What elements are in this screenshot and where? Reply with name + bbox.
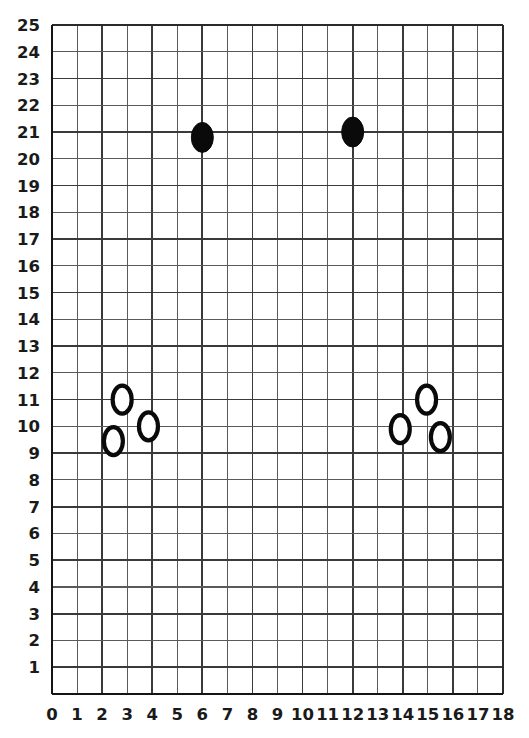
y-axis-tick-label: 10 [17, 417, 40, 436]
y-axis-tick-label: 2 [29, 631, 40, 650]
data-point-marker-filled [342, 117, 364, 147]
x-axis-tick-label: 11 [316, 705, 339, 724]
x-axis-tick-label: 18 [492, 705, 515, 724]
y-axis-tick-label: 6 [29, 524, 40, 543]
x-axis-tick-label: 14 [391, 705, 414, 724]
y-axis-tick-label: 13 [17, 337, 40, 356]
data-point-marker-hollow [113, 386, 132, 414]
x-axis-tick-label: 10 [291, 705, 314, 724]
x-axis-tick-label: 9 [272, 705, 283, 724]
x-axis-tick-label: 5 [172, 705, 183, 724]
y-axis-tick-label: 12 [17, 364, 40, 383]
y-axis-tick-label: 16 [17, 257, 40, 276]
y-axis-tick-label: 17 [17, 230, 40, 249]
data-point-marker-hollow [417, 386, 436, 414]
y-axis-tick-label: 14 [17, 310, 40, 329]
x-axis-tick-label: 12 [341, 705, 364, 724]
y-axis-tick-label: 15 [17, 284, 40, 303]
y-axis-tick-label: 18 [17, 203, 40, 222]
x-axis-tick-label: 1 [71, 705, 82, 724]
y-axis-tick-label: 20 [17, 150, 40, 169]
y-axis-tick-label: 19 [17, 177, 40, 196]
y-axis-tick-label: 25 [17, 16, 40, 35]
y-axis-tick-label: 21 [17, 123, 40, 142]
x-axis-tick-label: 8 [247, 705, 258, 724]
chart-canvas: 0123456789101112131415161718 12345678910… [0, 0, 529, 738]
x-axis-tick-label: 4 [146, 705, 157, 724]
y-axis-tick-label: 1 [29, 658, 40, 677]
x-axis-tick-label: 7 [222, 705, 233, 724]
x-axis-tick-label: 3 [121, 705, 132, 724]
chart-background [0, 0, 529, 738]
y-axis-tick-label: 5 [29, 551, 40, 570]
y-axis-tick-label: 3 [29, 605, 40, 624]
data-point-marker-hollow [139, 412, 158, 440]
y-axis-tick-label: 9 [29, 444, 40, 463]
y-axis-tick-label: 11 [17, 391, 40, 410]
y-axis-tick-label: 22 [17, 96, 40, 115]
y-axis-tick-label: 7 [29, 498, 40, 517]
x-axis-tick-label: 16 [441, 705, 464, 724]
x-axis-tick-label: 13 [366, 705, 389, 724]
data-point-marker-hollow [431, 423, 450, 451]
y-axis-tick-label: 8 [29, 471, 40, 490]
x-axis-tick-label: 0 [46, 705, 57, 724]
scatter-plot-figure: 0123456789101112131415161718 12345678910… [0, 0, 529, 738]
y-axis-tick-label: 24 [17, 43, 40, 62]
y-axis-tick-label: 4 [29, 578, 40, 597]
x-axis-tick-label: 15 [416, 705, 439, 724]
x-axis-tick-label: 6 [197, 705, 208, 724]
x-axis-tick-label: 2 [96, 705, 107, 724]
data-point-marker-hollow [391, 415, 410, 443]
y-axis-tick-label: 23 [17, 70, 40, 89]
x-axis-tick-label: 17 [466, 705, 489, 724]
data-point-marker-hollow [104, 427, 123, 455]
data-point-marker-filled [191, 122, 213, 152]
